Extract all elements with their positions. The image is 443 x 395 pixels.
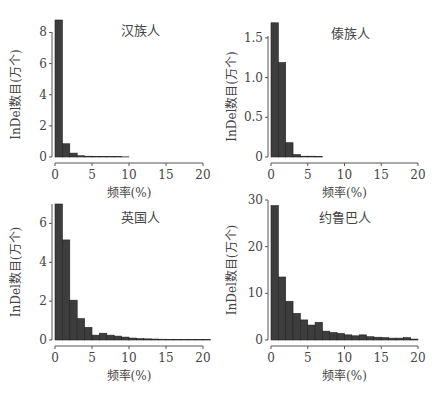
x-tick-label: 5 bbox=[304, 351, 312, 365]
histogram-bar bbox=[114, 336, 121, 340]
histogram-bar bbox=[359, 335, 366, 340]
y-tick-label: 6 bbox=[39, 57, 47, 71]
histogram-bar bbox=[173, 339, 180, 340]
histogram-bar bbox=[293, 155, 300, 157]
histogram-bar bbox=[166, 339, 173, 340]
x-tick-label: 0 bbox=[51, 168, 59, 182]
histogram-bar bbox=[389, 338, 396, 340]
histogram-panel-4: 010203005101520频率(%)InDel数目(万个)约鲁巴人 bbox=[224, 193, 426, 383]
x-tick-label: 20 bbox=[195, 168, 210, 182]
y-tick-label: 1.0 bbox=[244, 71, 263, 85]
histogram-bar bbox=[77, 319, 84, 340]
x-tick-label: 10 bbox=[121, 351, 136, 365]
x-tick-label: 10 bbox=[337, 168, 352, 182]
histogram-bar bbox=[367, 337, 374, 340]
histogram-bar bbox=[62, 240, 69, 340]
y-axis-label: InDel数目(万个) bbox=[224, 225, 239, 315]
histogram-bar bbox=[308, 156, 315, 157]
x-tick-label: 5 bbox=[88, 168, 96, 182]
x-tick-label: 15 bbox=[158, 351, 173, 365]
histogram-bar bbox=[271, 206, 278, 340]
histogram-bar bbox=[122, 337, 129, 340]
panel-title: 傣族人 bbox=[331, 26, 370, 41]
y-tick-label: 1.5 bbox=[244, 31, 263, 45]
y-tick-label: 4 bbox=[39, 255, 47, 269]
x-axis-label: 频率(%) bbox=[107, 368, 152, 383]
histogram-bar bbox=[330, 333, 337, 340]
histogram-bar bbox=[129, 338, 136, 340]
x-tick-label: 20 bbox=[410, 168, 425, 182]
x-tick-label: 0 bbox=[267, 351, 275, 365]
histogram-bar bbox=[315, 322, 322, 340]
x-axis-label: 频率(%) bbox=[322, 185, 367, 200]
histogram-bar bbox=[144, 339, 151, 340]
histogram-bar bbox=[300, 320, 307, 340]
histogram-bar bbox=[136, 339, 143, 340]
x-tick-label: 10 bbox=[121, 168, 136, 182]
y-tick-label: 8 bbox=[39, 25, 47, 39]
histogram-bar bbox=[278, 63, 285, 158]
y-tick-label: 10 bbox=[248, 286, 263, 300]
y-tick-label: 0 bbox=[39, 150, 47, 164]
histogram-bar bbox=[92, 335, 99, 340]
histogram-bar bbox=[70, 300, 77, 340]
histogram-bar bbox=[381, 338, 388, 340]
y-tick-label: 6 bbox=[39, 216, 47, 230]
y-tick-label: 0 bbox=[255, 333, 263, 347]
x-tick-label: 20 bbox=[195, 351, 210, 365]
histogram-bar bbox=[55, 204, 62, 340]
panel-title: 约鲁巴人 bbox=[319, 210, 371, 225]
histogram-bar bbox=[99, 333, 106, 340]
panel-title: 英国人 bbox=[121, 210, 160, 225]
panel-title: 汉族人 bbox=[121, 23, 160, 38]
x-tick-label: 15 bbox=[374, 168, 389, 182]
y-tick-label: 30 bbox=[248, 193, 263, 207]
y-tick-label: 0 bbox=[39, 333, 47, 347]
histogram-bar bbox=[85, 156, 92, 157]
histogram-bar bbox=[337, 333, 344, 340]
histogram-bar bbox=[85, 327, 92, 340]
histogram-bar bbox=[77, 156, 84, 157]
x-tick-label: 10 bbox=[337, 351, 352, 365]
histogram-bar bbox=[293, 313, 300, 340]
histogram-panel-2: 00.51.01.505101520频率(%)InDel数目(万个)傣族人 bbox=[224, 23, 426, 200]
histogram-bar bbox=[345, 335, 352, 340]
histogram-bar bbox=[55, 20, 62, 157]
figure-canvas: 0246805101520频率(%)InDel数目(万个)汉族人00.51.01… bbox=[0, 0, 443, 395]
y-axis-label: InDel数目(万个) bbox=[8, 227, 23, 317]
y-tick-label: 20 bbox=[248, 240, 263, 254]
histogram-bar bbox=[286, 143, 293, 157]
histogram-bar bbox=[151, 339, 158, 340]
histogram-panel-1: 0246805101520频率(%)InDel数目(万个)汉族人 bbox=[8, 20, 211, 200]
y-tick-label: 4 bbox=[39, 88, 47, 102]
y-tick-label: 0.5 bbox=[244, 110, 263, 124]
histogram-bar bbox=[396, 338, 403, 340]
x-tick-label: 20 bbox=[410, 351, 425, 365]
histogram-bar bbox=[271, 23, 278, 157]
histogram-bar bbox=[300, 156, 307, 157]
y-axis-label: InDel数目(万个) bbox=[224, 51, 239, 141]
histogram-bar bbox=[278, 277, 285, 340]
histogram-bar bbox=[403, 338, 410, 340]
y-tick-label: 2 bbox=[39, 119, 47, 133]
histogram-bar bbox=[92, 156, 99, 157]
y-axis-label: InDel数目(万个) bbox=[8, 49, 23, 139]
x-tick-label: 5 bbox=[88, 351, 96, 365]
y-tick-label: 2 bbox=[39, 294, 47, 308]
x-tick-label: 5 bbox=[304, 168, 312, 182]
x-tick-label: 0 bbox=[267, 168, 275, 182]
histogram-bar bbox=[70, 153, 77, 157]
x-tick-label: 15 bbox=[374, 351, 389, 365]
histogram-bar bbox=[322, 331, 329, 340]
histogram-bar bbox=[159, 339, 166, 340]
histogram-bar bbox=[374, 337, 381, 340]
y-tick-label: 0 bbox=[255, 150, 263, 164]
x-axis-label: 频率(%) bbox=[107, 185, 152, 200]
histogram-bar bbox=[308, 325, 315, 340]
histogram-bar bbox=[286, 301, 293, 340]
histogram-bar bbox=[352, 336, 359, 340]
histogram-bar bbox=[62, 144, 69, 157]
x-tick-label: 15 bbox=[158, 168, 173, 182]
histogram-bar bbox=[411, 339, 418, 340]
x-axis-label: 频率(%) bbox=[322, 368, 367, 383]
